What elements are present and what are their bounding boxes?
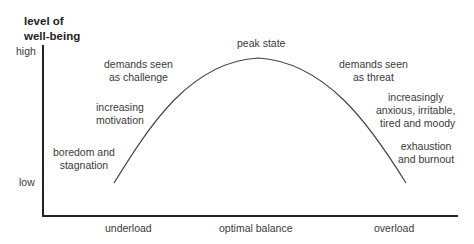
y-label-high: high bbox=[16, 45, 36, 58]
label-line: demands seen bbox=[104, 58, 173, 71]
label-line: tired and moody bbox=[376, 117, 455, 130]
label-line: increasing bbox=[96, 101, 144, 114]
x-label-underload: underload bbox=[105, 222, 152, 235]
label-boredom-stagnation: boredom and stagnation bbox=[53, 146, 115, 172]
label-exhaustion-burnout: exhaustion and burnout bbox=[398, 140, 454, 166]
label-line: motivation bbox=[96, 114, 144, 127]
x-label-optimal-balance: optimal balance bbox=[219, 222, 293, 235]
label-line: boredom and bbox=[53, 146, 115, 159]
y-label-low: low bbox=[19, 176, 35, 189]
label-increasing-motivation: increasing motivation bbox=[96, 101, 144, 127]
label-line: demands seen bbox=[339, 58, 408, 71]
label-increasingly-anxious: increasingly anxious, irritable, tired a… bbox=[376, 91, 455, 130]
label-line: increasingly bbox=[376, 91, 455, 104]
label-line: stagnation bbox=[53, 159, 115, 172]
label-demands-threat: demands seen as threat bbox=[339, 58, 408, 84]
x-label-overload: overload bbox=[374, 222, 414, 235]
label-line: as challenge bbox=[104, 71, 173, 84]
label-line: anxious, irritable, bbox=[376, 104, 455, 117]
label-peak-state: peak state bbox=[237, 37, 285, 50]
label-demands-challenge: demands seen as challenge bbox=[104, 58, 173, 84]
label-line: exhaustion bbox=[398, 140, 454, 153]
label-line: and burnout bbox=[398, 153, 454, 166]
label-line: as threat bbox=[339, 71, 408, 84]
